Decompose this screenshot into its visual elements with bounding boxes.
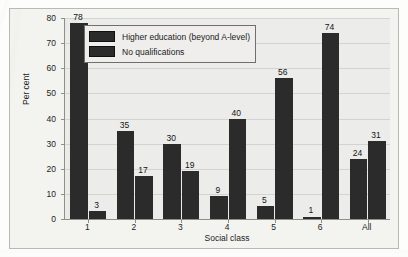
y-axis-tick-mark xyxy=(61,194,65,195)
x-axis-tick-label: 1 xyxy=(67,222,107,232)
bar xyxy=(368,141,386,219)
y-axis-tick-label: 80 xyxy=(47,14,56,23)
y-axis-tick-label: 50 xyxy=(47,89,56,98)
bar xyxy=(135,176,153,219)
gridline xyxy=(65,119,390,120)
legend-entry-no-qualifications: No qualifications xyxy=(89,44,251,59)
chart-figure: Per cent Social class Higher education (… xyxy=(9,8,399,249)
y-axis-tick-mark xyxy=(61,144,65,145)
gridline xyxy=(65,93,390,94)
gridline xyxy=(65,144,390,145)
legend-label-higher-education: Higher education (beyond A-level) xyxy=(122,32,250,42)
bar-value-label: 5 xyxy=(252,196,278,205)
y-axis-tick-mark xyxy=(61,43,65,44)
x-axis-tick-label: All xyxy=(347,222,387,232)
bar-value-label: 35 xyxy=(112,121,138,130)
gridline xyxy=(65,18,390,19)
bar xyxy=(322,33,340,219)
x-axis-tick-label: 6 xyxy=(300,222,340,232)
legend-swatch-higher-education xyxy=(89,31,115,42)
bar-value-label: 31 xyxy=(363,131,389,140)
bar-value-label: 9 xyxy=(205,186,231,195)
y-axis-tick-label: 20 xyxy=(47,165,56,174)
bar-value-label: 74 xyxy=(317,23,343,32)
bar-value-label: 40 xyxy=(224,109,250,118)
y-axis-tick-mark xyxy=(61,169,65,170)
gridline xyxy=(65,68,390,69)
bar-value-label: 1 xyxy=(298,206,324,215)
bar xyxy=(210,196,228,219)
x-axis-tick-label: 3 xyxy=(160,222,200,232)
bar-value-label: 3 xyxy=(84,201,110,210)
y-axis-tick-mark xyxy=(61,68,65,69)
bar-value-label: 24 xyxy=(345,149,371,158)
y-axis-tick-label: 0 xyxy=(51,215,56,224)
bar xyxy=(303,217,321,220)
legend-label-no-qualifications: No qualifications xyxy=(122,47,184,57)
bar xyxy=(182,171,200,219)
y-axis-title: Per cent xyxy=(21,73,31,105)
bar-value-label: 78 xyxy=(65,13,91,22)
y-axis-tick-label: 30 xyxy=(47,140,56,149)
gridline xyxy=(65,169,390,170)
bar xyxy=(163,144,181,219)
x-axis-tick-label: 4 xyxy=(207,222,247,232)
y-axis-tick-mark xyxy=(61,219,65,220)
y-axis-tick-label: 40 xyxy=(47,115,56,124)
x-axis-tick-label: 2 xyxy=(114,222,154,232)
legend-entry-higher-education: Higher education (beyond A-level) xyxy=(89,29,251,44)
y-axis-tick-label: 60 xyxy=(47,64,56,73)
scanned-page-background: Per cent Social class Higher education (… xyxy=(0,0,408,257)
bar xyxy=(257,206,275,219)
x-axis-title: Social class xyxy=(64,233,390,243)
bar-value-label: 30 xyxy=(158,134,184,143)
legend-swatch-no-qualifications xyxy=(89,46,115,57)
bar xyxy=(350,159,368,219)
y-axis-tick-label: 70 xyxy=(47,39,56,48)
bar-value-label: 19 xyxy=(177,161,203,170)
bar xyxy=(229,119,247,220)
bar xyxy=(89,211,107,219)
y-axis-tick-label: 10 xyxy=(47,190,56,199)
y-axis-tick-mark xyxy=(61,93,65,94)
bar xyxy=(275,78,293,219)
bar-value-label: 17 xyxy=(130,166,156,175)
bar-value-label: 56 xyxy=(270,68,296,77)
chart-legend: Higher education (beyond A-level) No qua… xyxy=(84,25,256,63)
x-axis-tick-label: 5 xyxy=(254,222,294,232)
y-axis-tick-mark xyxy=(61,119,65,120)
